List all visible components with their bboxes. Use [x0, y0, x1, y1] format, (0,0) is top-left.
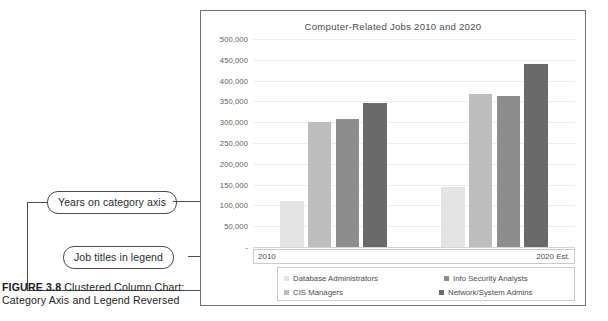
- bar-info-security-analysts-2010: [336, 119, 359, 247]
- category-axis: 2010 2020 Est.: [253, 249, 575, 264]
- y-tick-200000: 200,000: [220, 159, 248, 168]
- legend-item-info-security-analysts: Info Security Analysts: [444, 274, 528, 283]
- bar-cis-managers-2020: [469, 94, 492, 247]
- callout-job-titles-in-legend: Job titles in legend: [63, 246, 174, 269]
- y-tick-400000: 400,000: [220, 76, 248, 85]
- bar-network-system-admins-2020: [524, 64, 547, 247]
- legend-swatch-cis-managers: [284, 290, 289, 295]
- bar-network-system-admins-2010: [363, 103, 386, 247]
- gridline: [253, 247, 575, 248]
- y-tick-500000: 500,000: [220, 35, 248, 44]
- chart-legend: Database Administrators Info Security An…: [277, 267, 575, 301]
- y-tick-450000: 450,000: [220, 55, 248, 64]
- plot-area: -50,000100,000150,000200,000250,000300,0…: [253, 39, 575, 247]
- legend-label-network-system-admins: Network/System Admins: [448, 288, 533, 297]
- y-tick-150000: 150,000: [220, 180, 248, 189]
- bar-series-container: [253, 39, 575, 247]
- category-label-2020: 2020 Est.: [536, 250, 570, 263]
- legend-row-top: Database Administrators Info Security An…: [284, 271, 568, 285]
- leader-line-elbow-v: [27, 202, 28, 290]
- figure-caption: FIGURE 3.8 Clustered Column Chart: Categ…: [2, 281, 188, 307]
- bar-database-administrators-2010: [280, 201, 303, 247]
- category-label-2010: 2010: [258, 250, 276, 263]
- y-tick-300000: 300,000: [220, 118, 248, 127]
- y-tick-100000: 100,000: [220, 201, 248, 210]
- chart-title: Computer-Related Jobs 2010 and 2020: [201, 21, 585, 32]
- y-tick-50000: 50,000: [224, 222, 248, 231]
- legend-item-network-system-admins: Network/System Admins: [439, 288, 533, 297]
- chart-frame: Computer-Related Jobs 2010 and 2020 -50,…: [200, 10, 586, 306]
- y-tick-350000: 350,000: [220, 97, 248, 106]
- legend-swatch-info-security-analysts: [444, 276, 449, 281]
- legend-label-cis-managers: CIS Managers: [293, 288, 343, 297]
- legend-item-cis-managers: CIS Managers: [284, 288, 429, 297]
- annotation-column: Years on category axis Job titles in leg…: [0, 0, 200, 321]
- legend-row-bottom: CIS Managers Network/System Admins: [284, 285, 568, 299]
- y-tick-0: -: [245, 243, 248, 252]
- callout-years-on-category-axis: Years on category axis: [47, 191, 177, 214]
- bar-group-2010: [253, 39, 414, 247]
- legend-swatch-database-administrators: [284, 276, 289, 281]
- bar-group-2020-est: [414, 39, 575, 247]
- figure-number: FIGURE 3.8: [2, 281, 61, 293]
- bar-database-administrators-2020: [441, 187, 464, 247]
- legend-item-database-administrators: Database Administrators: [284, 274, 434, 283]
- legend-swatch-network-system-admins: [439, 290, 444, 295]
- leader-line-years: [173, 201, 201, 202]
- bar-info-security-analysts-2020: [497, 96, 520, 247]
- y-tick-250000: 250,000: [220, 139, 248, 148]
- bar-cis-managers-2010: [308, 122, 331, 247]
- leader-line-elbow-h-top: [27, 202, 48, 203]
- legend-label-database-administrators: Database Administrators: [293, 274, 378, 283]
- legend-label-info-security-analysts: Info Security Analysts: [453, 274, 528, 283]
